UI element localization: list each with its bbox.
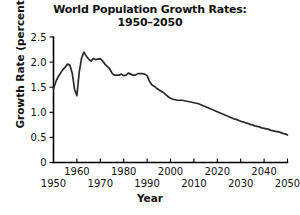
y-tick-label: 1.5 (31, 82, 47, 93)
y-axis-tick-labels: 00.51.01.52.02.5 (31, 32, 47, 169)
x-tick-label: 2000 (158, 166, 183, 177)
x-tick-label: 1970 (88, 178, 113, 189)
x-tick-label: 1990 (134, 178, 159, 189)
chart-figure: World Population Growth Rates: 1950–2050… (0, 0, 300, 215)
x-tick-label: 2010 (181, 178, 206, 189)
y-tick-label: 0 (40, 157, 46, 168)
y-tick-label: 1.0 (31, 107, 47, 118)
x-tick-label: 1960 (64, 166, 89, 177)
x-tick-label: 1950 (41, 178, 66, 189)
x-tick-label: 2050 (275, 178, 300, 189)
y-tick-label: 0.5 (31, 132, 47, 143)
x-tick-label: 1980 (111, 166, 136, 177)
x-tick-label: 2040 (251, 166, 276, 177)
y-tick-label: 2.5 (31, 32, 47, 43)
growth-rate-series-line (54, 52, 288, 135)
plot-area: 00.51.01.52.02.5 19501960197019801990200… (0, 0, 300, 215)
x-axis-tick-labels: 1950196019701980199020002010202020302040… (41, 166, 300, 189)
x-tick-label: 2030 (228, 178, 253, 189)
y-tick-label: 2.0 (31, 57, 47, 68)
x-tick-label: 2020 (205, 166, 230, 177)
